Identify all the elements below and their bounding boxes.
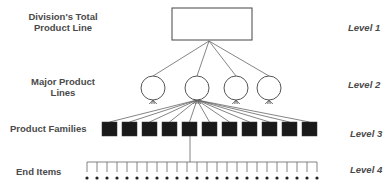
major-product-line-circle xyxy=(257,76,281,100)
label-end-items: End Items xyxy=(16,166,86,177)
product-family-square xyxy=(182,122,197,136)
level-4-label: Level 4 xyxy=(350,164,382,175)
end-item-dot xyxy=(255,176,258,179)
end-item-dot xyxy=(305,176,308,179)
end-item-dot xyxy=(245,176,248,179)
level-3-label: Level 3 xyxy=(350,128,382,139)
label-major-product-lines: Major Product Lines xyxy=(8,76,118,98)
label-division-total: Division's Total Product Line xyxy=(8,11,118,33)
end-item-dot xyxy=(135,176,138,179)
end-item-dot xyxy=(275,176,278,179)
end-item-dot xyxy=(225,176,228,179)
end-item-dot xyxy=(95,176,98,179)
division-total-box xyxy=(172,8,252,40)
product-family-square xyxy=(262,122,277,136)
end-item-dot xyxy=(265,176,268,179)
level-1-label: Level 1 xyxy=(348,22,380,33)
end-item-dot xyxy=(215,176,218,179)
level-2-label: Level 2 xyxy=(348,79,380,90)
end-item-dot xyxy=(205,176,208,179)
end-item-dot xyxy=(315,176,318,179)
end-item-dot xyxy=(175,176,178,179)
product-family-square xyxy=(242,122,257,136)
end-item-dot xyxy=(235,176,238,179)
end-item-dot xyxy=(145,176,148,179)
major-product-line-circle xyxy=(224,76,248,100)
end-item-dot xyxy=(295,176,298,179)
label-product-families: Product Families xyxy=(10,123,100,134)
end-item-dot xyxy=(285,176,288,179)
end-item-dot xyxy=(155,176,158,179)
product-family-square xyxy=(122,122,137,136)
end-item-dot xyxy=(105,176,108,179)
product-family-square xyxy=(142,122,157,136)
major-product-line-circle xyxy=(141,76,165,100)
end-item-dot xyxy=(115,176,118,179)
end-item-dot xyxy=(165,176,168,179)
product-family-square xyxy=(282,122,297,136)
end-item-dot xyxy=(125,176,128,179)
product-family-square xyxy=(162,122,177,136)
major-product-line-circle xyxy=(185,76,209,100)
product-family-square xyxy=(202,122,217,136)
product-family-square xyxy=(222,122,237,136)
end-item-dot xyxy=(185,176,188,179)
product-family-square xyxy=(302,122,317,136)
end-item-dot xyxy=(195,176,198,179)
product-family-square xyxy=(102,122,117,136)
